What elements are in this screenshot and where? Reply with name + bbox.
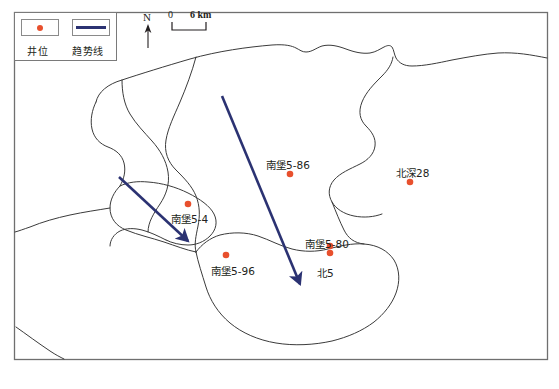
figure-root: 井位 趋势线 N 0 6 km 南堡5-86北深28南堡5-4南堡5-96南堡5…	[0, 0, 559, 389]
scale-bar-min-label: 0	[168, 9, 173, 20]
map-frame	[15, 13, 548, 360]
legend-label-well: 井位	[27, 43, 48, 58]
well-dot-icon[interactable]	[223, 252, 230, 259]
legend-swatch-trend	[72, 19, 110, 36]
well-label: 南堡5-4	[171, 211, 208, 226]
legend-swatch-well	[21, 19, 59, 36]
legend-label-trend: 趋势线	[72, 43, 104, 58]
scale-bar-max-label: 6 km	[190, 9, 211, 20]
well-dot-icon	[37, 25, 43, 31]
well-label: 南堡5-96	[211, 263, 255, 278]
trend-line-icon	[76, 26, 106, 29]
well-dot-icon[interactable]	[185, 201, 192, 208]
legend-swatch-row	[15, 17, 116, 38]
north-arrow-label: N	[143, 11, 151, 23]
well-label: 北深28	[396, 165, 429, 180]
well-label: 南堡5-80	[305, 236, 349, 251]
well-label: 北5	[317, 265, 334, 280]
well-label: 南堡5-86	[266, 157, 310, 172]
legend-label-row: 井位 趋势线	[15, 40, 116, 60]
map-legend: 井位 趋势线	[14, 12, 117, 61]
